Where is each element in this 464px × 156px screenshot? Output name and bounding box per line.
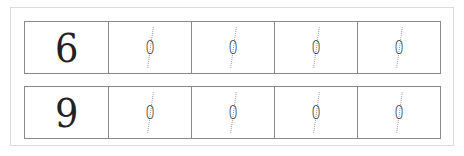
trace-digit: 0 — [145, 38, 155, 57]
trace-digit: 0 — [228, 103, 238, 122]
lead-digit: 9 — [55, 93, 78, 133]
lead-digit: 6 — [55, 28, 78, 68]
trace-digit: 0 — [394, 103, 404, 122]
lead-digit-cell: 6 — [25, 22, 108, 73]
trace-digit: 0 — [394, 38, 404, 57]
lead-digit-cell: 9 — [25, 87, 108, 138]
trace-cell: 0 — [357, 22, 440, 73]
trace-cell: 0 — [108, 22, 191, 73]
trace-digit: 0 — [311, 103, 321, 122]
trace-cell: 0 — [191, 87, 274, 138]
trace-cell: 0 — [274, 22, 357, 73]
trace-cell: 0 — [108, 87, 191, 138]
trace-cell: 0 — [274, 87, 357, 138]
practice-row-2: 9 0 0 0 0 — [24, 86, 441, 139]
trace-digit: 0 — [311, 38, 321, 57]
trace-digit: 0 — [145, 103, 155, 122]
practice-row-1: 6 0 0 0 0 — [24, 21, 441, 74]
trace-cell: 0 — [191, 22, 274, 73]
trace-digit: 0 — [228, 38, 238, 57]
trace-cell: 0 — [357, 87, 440, 138]
